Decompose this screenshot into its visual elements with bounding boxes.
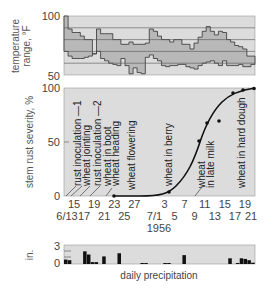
- rust-data-point: [167, 190, 171, 194]
- rust-data-point: [231, 91, 235, 95]
- precipitation-panel: 3 0 in. daily precipitation: [24, 240, 255, 281]
- x-tick-top: 19: [88, 198, 100, 210]
- rust-data-point: [205, 121, 209, 125]
- x-tick-top: 23: [108, 198, 120, 210]
- precip-bar: [117, 253, 121, 264]
- x-tick-top: 15: [219, 198, 231, 210]
- precip-y-axis-label: in.: [24, 250, 35, 261]
- precip-bar: [95, 262, 99, 264]
- x-tick-bottom: 17: [229, 210, 241, 222]
- x-axis-year: 1956: [147, 222, 171, 234]
- x-tick-top: 19: [239, 198, 251, 210]
- annotation-wheat-jointing: wheat jointing: [81, 125, 92, 187]
- rust-y-axis-label: stem rust severity, %: [24, 96, 35, 188]
- x-tick-bottom: 21: [245, 210, 257, 222]
- x-tick-bottom: 13: [209, 210, 221, 222]
- temperature-panel: 100 50 temperature range, °F: [10, 10, 255, 82]
- x-tick-bottom: 9: [192, 210, 198, 222]
- temp-y-tick-50: 50: [48, 70, 60, 82]
- rust-y-tick-100: 100: [42, 82, 60, 94]
- temp-y-axis-label-2: range, °F: [21, 25, 32, 66]
- x-tick-bottom: 17: [78, 210, 90, 222]
- annotation-wheat-in-hard-dough: wheat in hard dough: [236, 97, 247, 189]
- rust-data-point: [241, 88, 245, 92]
- x-tick-top: 15: [68, 198, 80, 210]
- x-tick-bottom: 5: [172, 210, 178, 222]
- x-tick-top: 7: [182, 198, 188, 210]
- precip-y-tick-3: 3: [54, 240, 60, 252]
- precip-bar: [236, 263, 240, 264]
- rust-y-tick-50: 50: [48, 136, 60, 148]
- precip-bar: [163, 263, 167, 264]
- precip-bar: [144, 263, 148, 264]
- x-axis-ticks-bottom: 6/131721257/159131721: [56, 210, 257, 222]
- x-axis-ticks-top: 1519232737111519: [68, 198, 251, 210]
- precip-bar: [102, 256, 106, 264]
- rust-data-point: [252, 87, 256, 91]
- x-tick-top: 11: [199, 198, 210, 210]
- precip-bar: [68, 260, 72, 264]
- precip-caption: daily precipitation: [120, 270, 197, 281]
- precip-bar: [247, 260, 251, 264]
- precip-plot-bg: [64, 245, 255, 264]
- precip-bar: [91, 262, 95, 264]
- precip-bar: [87, 255, 91, 265]
- rust-data-point: [217, 119, 221, 123]
- rust-data-point: [197, 139, 201, 143]
- precip-y-tick-0: 0: [54, 257, 60, 269]
- annotation-wheat-heading: wheat heading: [110, 121, 121, 187]
- precip-bar: [244, 259, 248, 264]
- stem-rust-panel: 100 50 0 stem rust severity, % rust inoc…: [24, 82, 257, 234]
- annotation-wheat-flowering: wheat flowering: [126, 121, 137, 191]
- temp-y-axis-label-1: temperature: [10, 19, 21, 73]
- x-tick-bottom: 7/1: [147, 210, 162, 222]
- precip-bar: [182, 255, 186, 264]
- annotation-wheat-in-late-milk-2: in late milk: [205, 140, 216, 188]
- annotation-wheat-in-berry: wheat in berry: [163, 123, 174, 187]
- precip-bar: [167, 263, 171, 264]
- x-tick-top: 3: [161, 198, 167, 210]
- precip-bar: [228, 258, 232, 264]
- temp-y-tick-100: 100: [42, 10, 60, 22]
- x-tick-top: 27: [128, 198, 140, 210]
- x-tick-bottom: 21: [98, 210, 110, 222]
- rust-y-tick-0: 0: [54, 190, 60, 202]
- precip-bar: [240, 258, 244, 264]
- x-tick-bottom: 25: [118, 210, 130, 222]
- x-tick-bottom: 6/13: [56, 210, 77, 222]
- precip-bar: [251, 263, 255, 264]
- figure: 100 50 temperature range, °F 100 50 0 st…: [0, 0, 275, 288]
- precip-bar: [83, 251, 87, 264]
- precip-bar: [140, 263, 144, 264]
- precip-bar: [64, 260, 68, 264]
